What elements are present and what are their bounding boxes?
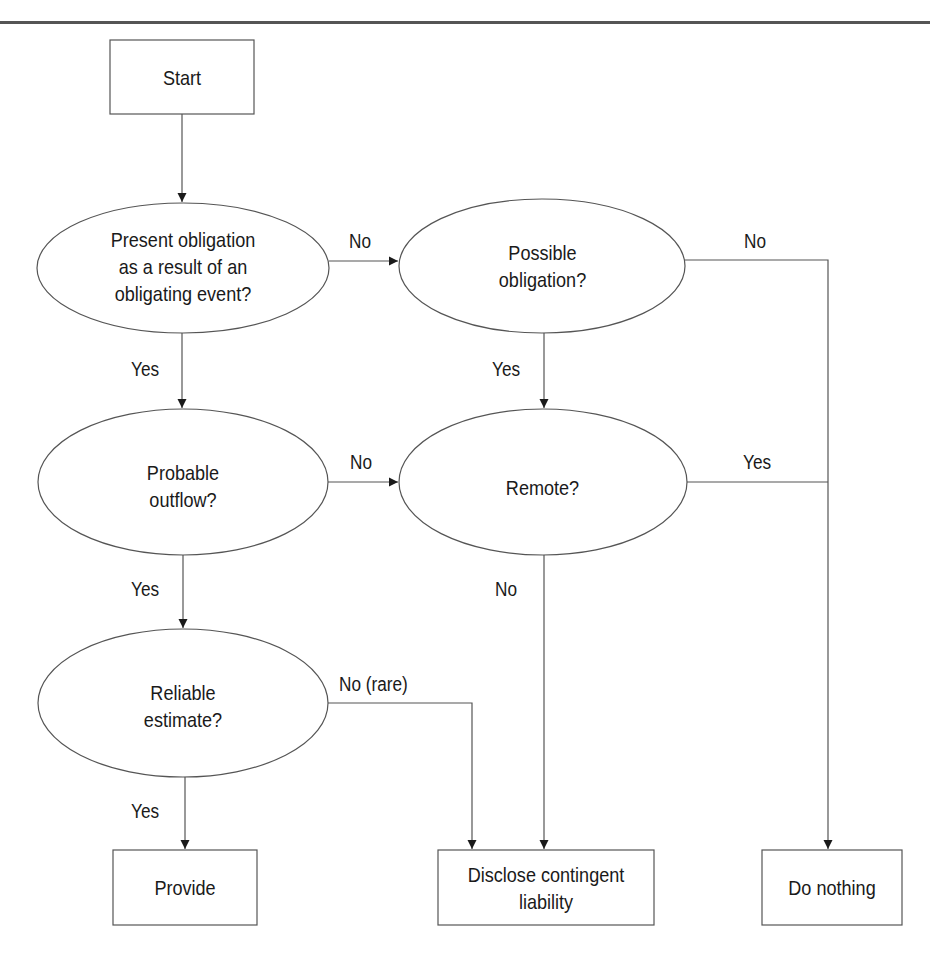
disclose-line-1: Disclose contingent: [468, 861, 625, 888]
edge-label-probable-yes: Yes: [131, 578, 159, 601]
probable-outflow-label: Probable outflow?: [60, 455, 306, 517]
edge-label-remote-yes: Yes: [743, 451, 771, 474]
edge-label-reliable-yes: Yes: [131, 800, 159, 823]
present-obligation-label: Present obligation as a result of an obl…: [60, 218, 306, 314]
edge-label-possible-no: No: [744, 230, 766, 253]
probable-outflow-line-1: Probable: [147, 459, 219, 486]
edge-label-remote-no: No: [495, 578, 517, 601]
provide-label: Provide: [123, 850, 247, 925]
edge-label-present-yes: Yes: [131, 358, 159, 381]
edge-label-possible-yes: Yes: [492, 358, 520, 381]
remote-label: Remote?: [420, 470, 665, 504]
present-obligation-line-3: obligating event?: [115, 280, 252, 307]
present-obligation-line-1: Present obligation: [111, 226, 256, 253]
probable-outflow-line-2: outflow?: [149, 486, 216, 513]
edge-label-reliable-no: No (rare): [339, 673, 408, 696]
flowchart-canvas: Start Present obligation as a result of …: [0, 0, 930, 957]
possible-obligation-line-1: Possible: [508, 239, 576, 266]
possible-obligation-label: Possible obligation?: [420, 235, 665, 297]
start-label: Start: [120, 40, 244, 114]
edge-label-probable-no: No: [350, 451, 372, 474]
disclose-line-2: liability: [519, 888, 573, 915]
disclose-label: Disclose contingent liability: [446, 850, 646, 925]
reliable-estimate-line-2: estimate?: [144, 706, 222, 733]
possible-obligation-line-2: obligation?: [499, 266, 586, 293]
do-nothing-label: Do nothing: [772, 850, 892, 925]
reliable-estimate-line-1: Reliable: [150, 679, 215, 706]
present-obligation-line-2: as a result of an: [119, 253, 248, 280]
reliable-estimate-label: Reliable estimate?: [60, 675, 306, 737]
edge-reliable-no: [328, 703, 472, 849]
edge-possible-no: [685, 260, 828, 849]
edge-label-present-no: No: [349, 230, 371, 253]
